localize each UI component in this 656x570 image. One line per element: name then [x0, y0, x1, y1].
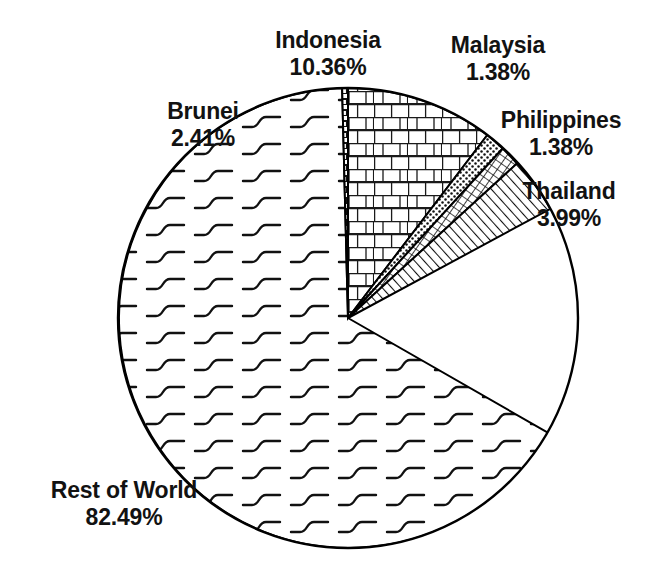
pie-label-philippines-name: Philippines — [466, 107, 656, 134]
pie-label-rest-of-world-value: 82.49% — [8, 504, 240, 531]
pie-label-indonesia-name: Indonesia — [248, 27, 408, 54]
chart-title — [0, 0, 656, 12]
pie-label-brunei: Brunei 2.41% — [128, 98, 278, 152]
pie-label-malaysia-name: Malaysia — [418, 32, 578, 59]
pie-label-rest-of-world-name: Rest of World — [8, 477, 240, 504]
pie-label-brunei-value: 2.41% — [128, 125, 278, 152]
pie-label-thailand-name: Thailand — [486, 178, 652, 205]
pie-label-philippines: Philippines 1.38% — [466, 107, 656, 161]
pie-label-thailand-value: 3.99% — [486, 205, 652, 232]
pie-label-brunei-name: Brunei — [128, 98, 278, 125]
pie-label-philippines-value: 1.38% — [466, 134, 656, 161]
pie-label-rest-of-world: Rest of World 82.49% — [8, 477, 240, 531]
pie-label-indonesia: Indonesia 10.36% — [248, 27, 408, 81]
pie-label-thailand: Thailand 3.99% — [486, 178, 652, 232]
pie-label-indonesia-value: 10.36% — [248, 54, 408, 81]
pie-label-malaysia: Malaysia 1.38% — [418, 32, 578, 86]
pie-chart: Indonesia 10.36% Malaysia 1.38% Philippi… — [0, 0, 656, 570]
pie-label-malaysia-value: 1.38% — [418, 59, 578, 86]
